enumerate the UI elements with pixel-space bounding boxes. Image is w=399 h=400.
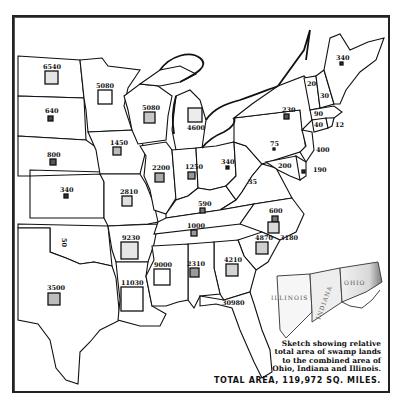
label-michigan: 4600 <box>187 124 206 132</box>
label-north-carolina: 3180 <box>280 234 299 242</box>
label-arkansas: 9230 <box>122 234 141 242</box>
label-minnesota: 5080 <box>96 82 115 90</box>
square-new-york <box>284 114 289 119</box>
label-maine: 340 <box>336 54 350 62</box>
state-rhode-island <box>326 118 334 128</box>
square-pennsylvania <box>273 148 275 150</box>
state-maine <box>324 34 384 104</box>
label-florida: 30980 <box>222 299 245 307</box>
square-minnesota <box>98 90 112 104</box>
label-south-carolina: 4870 <box>255 234 274 242</box>
label-west-virginia: 35 <box>248 178 258 186</box>
square-arkansas <box>121 242 138 259</box>
square-georgia <box>226 264 238 276</box>
label-kentucky: 590 <box>198 200 212 208</box>
label-north-dakota: 6540 <box>43 63 62 71</box>
label-wisconsin: 5080 <box>142 104 161 112</box>
inset-illinois <box>277 274 312 338</box>
square-kansas <box>64 194 68 198</box>
square-louisiana <box>121 287 143 311</box>
label-oklahoma: 50 <box>60 238 68 248</box>
comparison-inset: ILLINOIS INDIANA OHIO <box>271 262 382 338</box>
label-georgia: 4210 <box>224 256 243 264</box>
label-rhode-island: 12 <box>335 121 344 129</box>
label-louisiana: 11030 <box>121 279 144 287</box>
label-new-jersey: 400 <box>316 146 330 154</box>
square-wisconsin <box>144 112 155 123</box>
label-pennsylvania: 75 <box>270 140 280 148</box>
square-virginia <box>272 216 278 222</box>
label-new-york: 230 <box>282 106 296 114</box>
square-indiana <box>188 172 195 179</box>
square-illinois <box>155 173 164 182</box>
map-caption: Sketch showing relative total area of sw… <box>255 340 381 373</box>
label-missouri: 2810 <box>120 188 139 196</box>
label-vermont: 20 <box>307 80 317 88</box>
inset-label-ohio: OHIO <box>344 279 365 286</box>
square-ohio <box>226 166 229 169</box>
label-nebraska: 800 <box>47 151 61 159</box>
square-south-dakota <box>48 116 53 121</box>
square-missouri <box>122 196 132 206</box>
square-north-carolina-main <box>268 222 279 233</box>
label-tennessee: 1000 <box>187 222 206 230</box>
square-kentucky <box>200 208 205 213</box>
label-virginia: 600 <box>269 207 283 215</box>
state-nebraska <box>18 136 104 176</box>
square-maine <box>340 62 343 65</box>
square-alabama <box>190 268 199 277</box>
label-ohio: 340 <box>221 158 235 166</box>
label-indiana: 1250 <box>185 163 204 171</box>
label-iowa: 1450 <box>110 139 129 147</box>
total-area-label: TOTAL AREA, 119,972 SQ. MILES. <box>214 376 381 385</box>
label-maryland: 200 <box>278 162 292 170</box>
label-new-hampshire: 30 <box>320 92 330 100</box>
square-michigan <box>188 108 202 122</box>
square-delaware <box>302 170 305 173</box>
label-south-dakota: 640 <box>45 107 59 115</box>
label-delaware: 190 <box>313 166 327 174</box>
label-alabama: 2310 <box>187 260 206 268</box>
label-kansas: 340 <box>60 186 74 194</box>
square-nebraska <box>50 159 56 165</box>
label-illinois: 2200 <box>152 164 171 172</box>
square-mississippi <box>154 269 170 285</box>
square-south-carolina <box>256 242 268 254</box>
inset-label-illinois: ILLINOIS <box>271 294 308 301</box>
caption-line-4: Ohio, Indiana and Illinois. <box>255 365 381 373</box>
square-north-dakota <box>45 71 58 84</box>
square-tennessee <box>191 230 197 236</box>
label-mississippi: 9000 <box>154 261 173 269</box>
square-texas <box>48 293 60 305</box>
square-iowa <box>113 147 121 155</box>
state-michigan-upper <box>140 66 196 86</box>
label-texas: 3500 <box>47 284 66 292</box>
label-connecticut: 40 <box>314 121 324 129</box>
label-massachusetts: 90 <box>314 110 324 118</box>
